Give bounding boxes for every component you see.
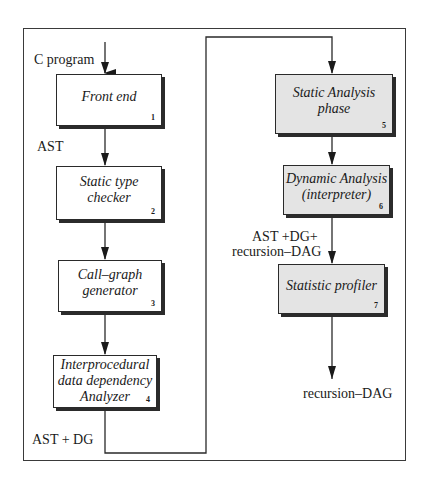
box-static-analysis-phase: Static Analysis phase 5 [275,74,393,134]
edge-label-ast: AST [37,139,63,154]
box-front-end: Front end 1 [56,74,162,126]
box-label-line-3: Analyzer [80,389,130,405]
box-number: 6 [379,203,383,211]
box-label-line-1: Call–graph [78,267,143,283]
box-label-line-1: Static type [80,174,139,190]
box-number: 5 [382,122,386,130]
edge-label-recursion-dag-input: recursion–DAG [232,244,321,259]
box-number: 7 [374,302,378,310]
box-label-line-1: Dynamic Analysis [286,171,387,187]
box-label-line-1: Statistic profiler [286,278,377,294]
box-number: 4 [146,396,150,404]
box-label-line-1: Interprocedural [61,357,150,373]
box-label-line-2: (interpreter) [302,187,371,203]
edge-label-ast-dg-plus: AST +DG+ [252,229,318,244]
box-label-line-2: phase [318,101,351,117]
box-label-line-1: Static Analysis [293,85,376,101]
box-number: 2 [151,208,155,216]
box-number: 3 [151,300,155,308]
box-label-line-2: data dependency [58,373,152,389]
box-label-line-2: checker [87,190,131,206]
edge-label-ast-dg: AST + DG [32,432,93,447]
box-label: Front end [81,89,136,105]
input-label-c-program: C program [34,52,94,67]
box-static-type-checker: Static type checker 2 [56,166,162,220]
box-call-graph-generator: Call–graph generator 3 [58,260,162,312]
box-statistic-profiler: Statistic profiler 7 [278,264,385,314]
box-interprocedural-analyzer: Interprocedural data dependency Analyzer… [53,355,157,408]
box-label-line-2: generator [82,283,137,299]
box-number: 1 [151,114,155,122]
output-label-recursion-dag: recursion–DAG [303,386,392,401]
box-dynamic-analysis-interpreter: Dynamic Analysis (interpreter) 6 [283,165,390,215]
